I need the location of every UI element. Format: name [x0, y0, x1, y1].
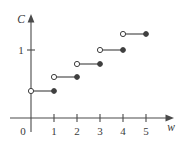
open-point-3 [74, 61, 79, 66]
x-axis-label: w [167, 121, 175, 133]
x-tick-label-4: 4 [120, 125, 126, 137]
closed-point-2 [75, 75, 80, 80]
open-point-4 [97, 47, 102, 52]
x-tick-label-5: 5 [143, 125, 149, 137]
y-tick-label-1: 1 [18, 44, 24, 56]
x-tick-label-3: 3 [97, 125, 103, 137]
x-axis-group [10, 114, 174, 122]
y-axis-arrow-icon [28, 14, 35, 23]
open-point-2 [51, 74, 56, 79]
x-tick-label-1: 1 [51, 125, 57, 137]
open-point-1 [28, 88, 33, 93]
endpoint-markers [28, 31, 148, 93]
origin-label: 0 [20, 125, 26, 137]
step-function-chart: C w 0 1 1 2 3 4 5 [0, 0, 189, 147]
closed-point-5 [144, 32, 149, 37]
chart-svg: C w 0 1 1 2 3 4 5 [0, 0, 189, 147]
closed-point-4 [121, 48, 126, 53]
x-tick-label-2: 2 [74, 125, 80, 137]
step-series [31, 34, 146, 91]
open-point-5 [120, 31, 125, 36]
closed-point-1 [52, 89, 57, 94]
closed-point-3 [98, 62, 103, 67]
y-axis-label: C [17, 13, 25, 25]
y-axis-group [27, 14, 35, 132]
